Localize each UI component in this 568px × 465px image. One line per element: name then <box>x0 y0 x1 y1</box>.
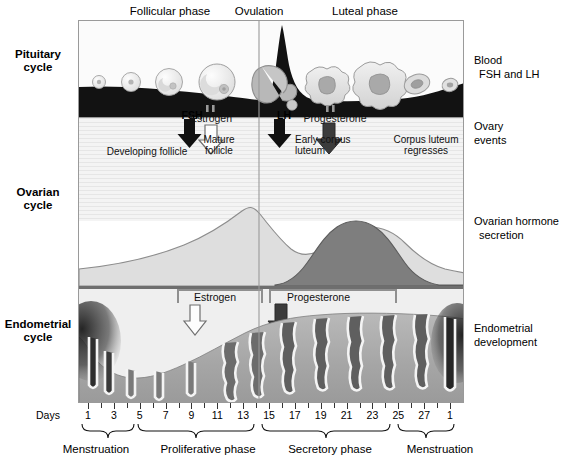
right-label-hormone-line2: secretion <box>474 229 568 243</box>
day-tick-minor <box>360 403 361 408</box>
right-label-endodev-line1: Endometrial <box>474 322 533 334</box>
row-label-ovarian-cycle: Ovarian cycle <box>0 186 76 212</box>
day-tick-minor <box>385 403 386 408</box>
row-label-ovarian-line2: cycle <box>24 199 53 211</box>
cycle-chart-frame: FSH LH Developing follicle Mature follic… <box>78 20 464 403</box>
day-tick-label: 17 <box>285 409 305 421</box>
bottom-phase-secretory: Secretory phase <box>268 443 392 455</box>
right-label-ovary-line1: Ovary <box>474 120 503 132</box>
day-tick-label: 27 <box>414 409 434 421</box>
right-label-ovary-line2: events <box>474 134 506 146</box>
row-label-endometrial-cycle: Endometrial cycle <box>0 318 76 344</box>
row-label-pituitary-line1: Pituitary <box>15 48 61 60</box>
day-tick-minor <box>204 403 205 408</box>
right-label-blood-fsh-lh: Blood FSH and LH <box>474 54 568 81</box>
day-tick-label: 11 <box>207 409 227 421</box>
mature-follicle-group <box>199 64 235 100</box>
day-tick-label: 9 <box>181 409 201 421</box>
estrogen-label-ovary: Estrogen <box>179 113 243 124</box>
cycle-chart-svg <box>79 21 464 403</box>
early-corpus-luteum-group <box>305 67 350 106</box>
day-tick-minor <box>308 403 309 408</box>
day-tick-label: 3 <box>104 409 124 421</box>
right-label-endometrial-development: Endometrial development <box>474 322 568 349</box>
bottom-phase-proliferative: Proliferative phase <box>142 443 274 455</box>
row-label-pituitary-line2: cycle <box>24 61 53 73</box>
right-label-blood-line1: Blood <box>474 54 502 66</box>
right-label-blood-line2: FSH and LH <box>474 68 568 82</box>
row-label-ovarian-line1: Ovarian <box>17 186 60 198</box>
estrogen-label-endometrium: Estrogen <box>183 292 247 303</box>
days-axis-label: Days <box>36 409 60 421</box>
day-tick-label: 5 <box>130 409 150 421</box>
right-label-endodev-line2: development <box>474 336 537 348</box>
day-tick-label: 23 <box>362 409 382 421</box>
right-label-ovary-events: Ovary events <box>474 120 568 147</box>
row-label-endometrial-line2: cycle <box>24 331 53 343</box>
hormone-endometrium-divider <box>79 286 464 289</box>
day-tick-label: 19 <box>311 409 331 421</box>
right-label-ovarian-hormone-secretion: Ovarian hormone secretion <box>474 215 568 242</box>
phase-label-luteal: Luteal phase <box>300 5 430 17</box>
developing-follicle-label: Developing follicle <box>87 146 207 157</box>
corpus-luteum-regresses-label-line2: regresses <box>385 145 464 156</box>
bottom-phase-menstruation-1: Menstruation <box>48 443 144 455</box>
day-tick-label: 25 <box>388 409 408 421</box>
bottom-phase-menstruation-2: Menstruation <box>392 443 488 455</box>
days-axis: 135791113151719212325271 <box>78 403 464 425</box>
menstrual-cycle-diagram: Follicular phase Ovulation Luteal phase … <box>0 0 568 465</box>
phase-label-follicular: Follicular phase <box>110 5 230 17</box>
row-label-pituitary-cycle: Pituitary cycle <box>0 48 76 74</box>
mature-follicle-label-line1: Mature <box>191 134 247 145</box>
day-tick-minor <box>282 403 283 408</box>
day-tick-minor <box>437 403 438 408</box>
day-tick-label: 7 <box>156 409 176 421</box>
corpus-luteum-group <box>353 62 408 110</box>
row-label-endometrial-line1: Endometrial <box>5 318 71 330</box>
day-tick-minor <box>179 403 180 408</box>
day-tick-minor <box>256 403 257 408</box>
day-tick-minor <box>153 403 154 408</box>
bottom-phase-braces <box>78 424 468 442</box>
day-tick-minor <box>101 403 102 408</box>
early-corpus-luteum-label-line1: Early corpus <box>295 134 381 145</box>
corpus-luteum-regresses-label-line1: Corpus luteum <box>385 134 464 145</box>
day-tick-minor <box>230 403 231 408</box>
mature-follicle-label-line2: follicle <box>191 145 247 156</box>
right-label-hormone-line1: Ovarian hormone <box>474 215 559 227</box>
early-corpus-luteum-label-line2: luteum <box>295 145 381 156</box>
phase-label-ovulation: Ovulation <box>218 5 300 17</box>
day-tick-minor <box>334 403 335 408</box>
day-tick-minor <box>411 403 412 408</box>
day-tick-label: 21 <box>337 409 357 421</box>
day-tick-label: 1 <box>78 409 98 421</box>
day-tick-label: 1 <box>440 409 460 421</box>
progesterone-label-endometrium: Progesterone <box>287 292 377 303</box>
day-tick-label: 13 <box>233 409 253 421</box>
day-tick-label: 15 <box>259 409 279 421</box>
progesterone-label-ovary: Progesterone <box>291 113 379 124</box>
day-tick-minor <box>127 403 128 408</box>
